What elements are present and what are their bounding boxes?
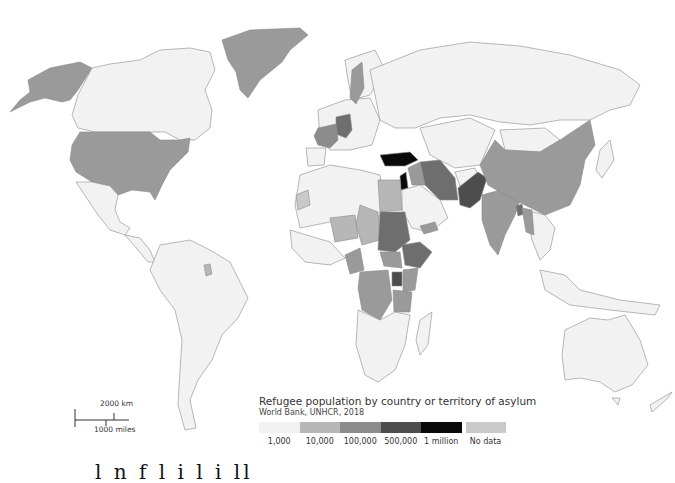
- legend-swatch-no-data: [466, 422, 506, 433]
- legend-swatches: [259, 422, 519, 433]
- legend-swatch-100000: [340, 422, 381, 433]
- region-new-zealand: [650, 392, 672, 412]
- legend-swatch-10000: [300, 422, 341, 433]
- region-japan: [596, 140, 614, 178]
- region-madagascar: [416, 312, 432, 355]
- region-myanmar: [522, 208, 534, 235]
- region-ethiopia: [402, 242, 432, 268]
- legend-label-500000: 500,000: [381, 437, 422, 446]
- region-tanzania: [393, 290, 412, 312]
- region-south-sudan: [380, 252, 402, 268]
- region-central-america: [125, 235, 155, 262]
- region-australia: [562, 315, 648, 392]
- region-southern-africa: [356, 310, 410, 382]
- legend-swatch-1-million: [421, 422, 462, 433]
- region-turkey: [380, 152, 418, 166]
- legend-swatch-1000: [259, 422, 300, 433]
- region-cameroon: [345, 248, 364, 274]
- region-jordan: [400, 172, 408, 190]
- scale-miles-label: 1000 miles: [94, 425, 135, 434]
- legend-label-1-million: 1 million: [421, 437, 462, 446]
- region-kenya: [403, 268, 418, 292]
- legend-labels: 1,000 10,000 100,000 500,000 1 million N…: [259, 437, 519, 446]
- region-canada: [72, 48, 215, 140]
- region-egypt: [378, 180, 402, 212]
- map-legend: Refugee population by country or territo…: [259, 395, 519, 446]
- region-greenland: [222, 28, 308, 98]
- region-russia: [370, 42, 640, 128]
- region-south-america: [150, 240, 248, 430]
- region-indonesia: [540, 270, 660, 315]
- cropped-caption: l n f l i l i ll: [95, 460, 253, 483]
- legend-title: Refugee population by country or territo…: [259, 395, 519, 407]
- legend-label-100000: 100,000: [340, 437, 381, 446]
- legend-swatch-500000: [381, 422, 422, 433]
- legend-source: World Bank, UNHCR, 2018: [259, 407, 519, 418]
- legend-label-10000: 10,000: [300, 437, 341, 446]
- region-iberia: [306, 148, 326, 166]
- region-tasmania: [612, 398, 620, 405]
- legend-label-1000: 1,000: [259, 437, 300, 446]
- region-uganda: [392, 272, 402, 286]
- scale-km-label: 2000 km: [100, 399, 133, 408]
- region-niger-mali: [330, 215, 358, 242]
- legend-label-no-data: No data: [466, 437, 506, 446]
